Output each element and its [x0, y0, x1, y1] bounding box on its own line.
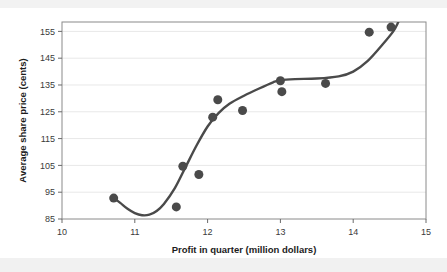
y-tick-label: 145 — [40, 53, 55, 63]
data-point — [387, 23, 396, 32]
x-tick-label: 14 — [348, 227, 358, 237]
x-tick-label: 10 — [57, 227, 67, 237]
trend-line — [114, 22, 399, 215]
y-tick-label: 95 — [45, 187, 55, 197]
data-point — [172, 202, 181, 211]
x-axis-title: Profit in quarter (million dollars) — [172, 244, 317, 255]
data-point — [365, 28, 374, 37]
data-point — [321, 79, 330, 88]
data-point — [277, 87, 286, 96]
data-point — [238, 106, 247, 115]
data-point — [213, 95, 222, 104]
data-point — [109, 194, 118, 203]
x-tick-label: 13 — [275, 227, 285, 237]
y-axis-title: Average share price (cents) — [17, 58, 28, 182]
y-tick-label: 125 — [40, 107, 55, 117]
y-tick-label: 85 — [45, 214, 55, 224]
y-tick-label: 115 — [41, 134, 55, 144]
chart-figure: 8595105115125135145155101112131415Profit… — [0, 0, 447, 272]
data-point — [178, 162, 187, 171]
y-tick-label: 155 — [40, 27, 55, 37]
data-point — [276, 76, 285, 85]
y-tick-label: 105 — [40, 161, 55, 171]
data-point — [208, 113, 217, 122]
data-point — [194, 170, 203, 179]
y-tick-label: 135 — [40, 80, 55, 90]
x-tick-label: 15 — [421, 227, 431, 237]
x-tick-label: 12 — [203, 227, 213, 237]
plot-frame — [62, 22, 426, 219]
x-tick-label: 11 — [130, 227, 139, 237]
scatter-plot-svg: 8595105115125135145155101112131415Profit… — [0, 0, 447, 272]
